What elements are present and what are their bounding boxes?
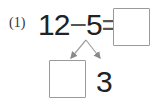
decomposition-value: 3 — [96, 66, 113, 98]
decomposition-box[interactable] — [49, 60, 86, 98]
